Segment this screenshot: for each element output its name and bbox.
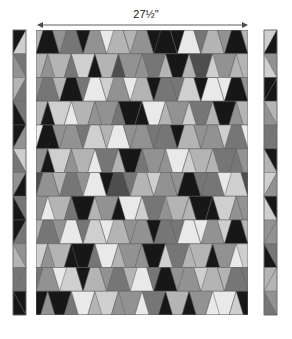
- diagram-canvas: 27½": [0, 0, 292, 339]
- dimension-label: 27½": [133, 8, 158, 20]
- quilt-pattern-diagram: 27½": [0, 0, 292, 339]
- right-border-strip: [264, 30, 277, 315]
- left-border-strip: [13, 30, 26, 315]
